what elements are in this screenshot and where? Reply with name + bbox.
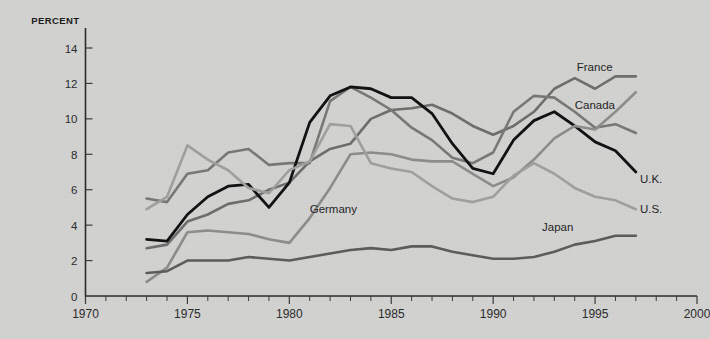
- y-tick-label: 8: [71, 149, 77, 161]
- x-tick-label: 1990: [480, 307, 507, 321]
- y-tick-label: 14: [65, 43, 78, 55]
- series-label-japan: Japan: [542, 221, 573, 233]
- series-line-us: [147, 124, 636, 209]
- series-line-germany: [147, 92, 636, 282]
- series-line-japan: [147, 236, 636, 273]
- series-label-france: France: [577, 61, 613, 73]
- y-axis-title: PERCENT: [31, 15, 79, 26]
- x-tick-label: 1980: [276, 307, 303, 321]
- unemployment-rate-line-chart: PERCENT024681012141970197519801985199019…: [0, 0, 710, 339]
- y-tick-label: 4: [71, 220, 78, 232]
- series-label-uk: U.K.: [640, 173, 662, 185]
- y-tick-label: 10: [65, 113, 78, 125]
- x-tick-label: 1995: [582, 307, 609, 321]
- chart-canvas: PERCENT024681012141970197519801985199019…: [0, 0, 710, 339]
- y-tick-label: 12: [65, 78, 78, 90]
- x-tick-label: 1985: [378, 307, 405, 321]
- series-label-us: U.S.: [640, 203, 662, 215]
- series-label-germany: Germany: [310, 203, 358, 215]
- y-tick-label: 6: [71, 184, 77, 196]
- series-label-canada: Canada: [575, 99, 616, 111]
- series-line-canada: [147, 87, 636, 202]
- x-tick-label: 2000: [684, 307, 710, 321]
- y-tick-label: 2: [71, 255, 77, 267]
- x-tick-label: 1970: [72, 307, 99, 321]
- y-tick-label: 0: [71, 291, 77, 303]
- x-tick-label: 1975: [174, 307, 201, 321]
